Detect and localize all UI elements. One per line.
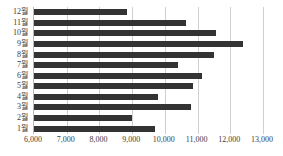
- x-axis-label: 12,000: [218, 136, 240, 144]
- y-axis-category-labels: 12월11월10월9월8월7월6월5월4월3월2월1월: [0, 7, 31, 134]
- y-axis-label: 4월: [0, 92, 31, 103]
- bar-row: [34, 7, 262, 18]
- bar-chart: 12월11월10월9월8월7월6월5월4월3월2월1월 6,0007,0008,…: [0, 0, 283, 156]
- gridline: [263, 7, 264, 134]
- bar: [34, 115, 132, 121]
- y-axis-label: 1월: [0, 123, 31, 134]
- x-axis-label: 7,000: [57, 136, 75, 144]
- y-axis-label: 6월: [0, 70, 31, 81]
- y-axis-label: 8월: [0, 49, 31, 60]
- bar: [34, 94, 158, 100]
- bar: [34, 62, 178, 68]
- bar-row: [34, 39, 262, 50]
- x-axis-label: 11,000: [186, 136, 208, 144]
- x-axis-label: 13,000: [251, 136, 273, 144]
- bar: [34, 104, 191, 110]
- y-axis-label: 11월: [0, 18, 31, 29]
- x-axis-label: 9,000: [122, 136, 140, 144]
- y-axis-label: 12월: [0, 7, 31, 18]
- bar-row: [34, 49, 262, 60]
- bar-row: [34, 81, 262, 92]
- bar: [34, 9, 127, 15]
- bar: [34, 52, 214, 58]
- bar-row: [34, 28, 262, 39]
- bar-row: [34, 123, 262, 134]
- bar-row: [34, 92, 262, 103]
- bar: [34, 30, 216, 36]
- y-axis-label: 9월: [0, 39, 31, 50]
- bar: [34, 83, 193, 89]
- y-axis-label: 3월: [0, 102, 31, 113]
- x-axis-tick-labels: 6,0007,0008,0009,00010,00011,00012,00013…: [33, 136, 262, 150]
- y-axis-label: 2월: [0, 113, 31, 124]
- y-axis-label: 7월: [0, 60, 31, 71]
- bar: [34, 20, 186, 26]
- x-axis-label: 6,000: [24, 136, 42, 144]
- bar-series: [34, 7, 262, 134]
- bar-row: [34, 60, 262, 71]
- bar-row: [34, 102, 262, 113]
- bar: [34, 41, 243, 47]
- y-axis-label: 5월: [0, 81, 31, 92]
- bar-row: [34, 18, 262, 29]
- x-axis-label: 8,000: [89, 136, 107, 144]
- x-axis-label: 10,000: [153, 136, 175, 144]
- y-axis-label: 10월: [0, 28, 31, 39]
- bar-row: [34, 113, 262, 124]
- plot-area: [33, 7, 262, 134]
- bar: [34, 73, 202, 79]
- bar: [34, 126, 155, 132]
- bar-row: [34, 70, 262, 81]
